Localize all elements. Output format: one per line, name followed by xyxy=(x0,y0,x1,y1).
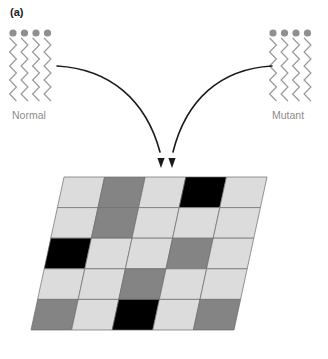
membrane-cell-r1c3 xyxy=(139,177,186,208)
lipid-head xyxy=(21,29,28,36)
membrane-cell-r4c5 xyxy=(200,269,247,300)
lipid-head xyxy=(281,29,288,36)
lipid-head xyxy=(32,29,39,36)
membrane-cell-r4c3 xyxy=(119,269,166,300)
membrane-cell-r5c2 xyxy=(72,299,119,330)
membrane-cell-r5c5 xyxy=(193,299,240,330)
lipid-head xyxy=(292,29,299,36)
membrane-cell-r2c1 xyxy=(51,208,98,239)
membrane-cell-r5c3 xyxy=(112,299,159,330)
membrane-cell-r3c1 xyxy=(44,238,91,269)
lipid-head xyxy=(269,29,276,36)
membrane-grid xyxy=(31,177,267,330)
membrane-cell-r4c2 xyxy=(78,269,125,300)
membrane-cell-r2c2 xyxy=(91,208,138,239)
membrane-cell-r3c3 xyxy=(125,238,172,269)
membrane-cell-r1c5 xyxy=(220,177,267,208)
membrane-cell-r1c1 xyxy=(57,177,104,208)
lipid-group-label-mutant: Mutant xyxy=(272,109,304,121)
membrane-cell-r3c2 xyxy=(85,238,132,269)
membrane-cell-r2c4 xyxy=(173,208,220,239)
membrane-cell-r3c5 xyxy=(207,238,254,269)
membrane-cell-r1c4 xyxy=(179,177,226,208)
membrane-cell-r2c3 xyxy=(132,208,179,239)
figure-container: (a) NormalMutant xyxy=(0,0,328,359)
membrane-cell-r1c2 xyxy=(98,177,145,208)
panel-label: (a) xyxy=(10,6,24,18)
membrane-cell-r3c4 xyxy=(166,238,213,269)
membrane-cell-r4c4 xyxy=(159,269,206,300)
lipid-head xyxy=(304,29,311,36)
membrane-cell-r5c1 xyxy=(31,299,78,330)
lipid-head xyxy=(9,29,16,36)
lipid-head xyxy=(44,29,51,36)
membrane-cell-r5c4 xyxy=(153,299,200,330)
membrane-cell-r4c1 xyxy=(38,269,85,300)
membrane-cell-r2c5 xyxy=(213,208,260,239)
membrane-diagram: (a) NormalMutant xyxy=(0,0,328,359)
lipid-group-label-normal: Normal xyxy=(12,109,46,121)
